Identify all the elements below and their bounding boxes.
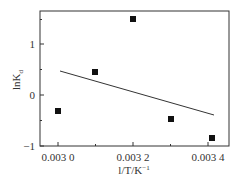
y-ticks (40, 20, 44, 147)
data-point (168, 116, 174, 122)
x-ticks (58, 142, 208, 146)
x-tick-label: 0.003 0 (42, 151, 76, 163)
fit-line (60, 71, 214, 115)
data-point (92, 69, 98, 75)
x-tick-label: 0.003 2 (117, 151, 150, 163)
data-points (55, 16, 215, 141)
y-tick-label: −1 (23, 140, 35, 152)
x-axis-label: l/T/K−1 (118, 164, 150, 176)
data-point (209, 135, 215, 141)
plot-frame (40, 11, 229, 146)
data-point (130, 16, 136, 22)
y-tick-label: 1 (30, 38, 36, 50)
data-point (55, 108, 61, 114)
chart: 1 0 −1 0.003 0 0.003 2 0.003 4 l/T/K−1 l… (0, 0, 242, 182)
y-axis-label: lnKd (10, 70, 25, 91)
x-tick-label: 0.003 4 (192, 151, 226, 163)
y-tick-label: 0 (30, 89, 36, 101)
